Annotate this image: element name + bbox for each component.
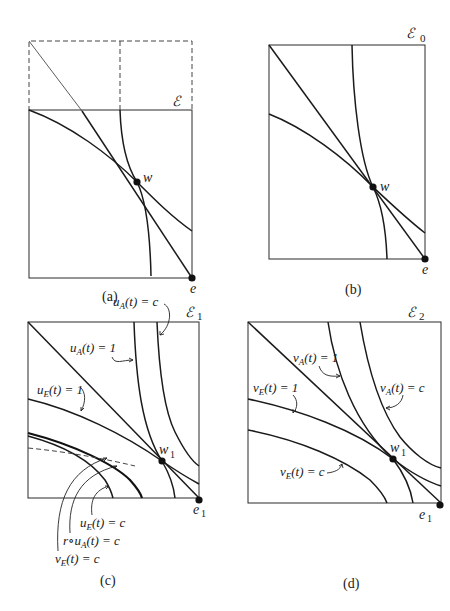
point-e-label: e (422, 262, 428, 277)
point-e1-label: e (193, 502, 199, 517)
point-e1 (436, 501, 443, 508)
set-label-subscript: 1 (197, 310, 203, 322)
svg-text:vE(t) = 1: vE(t) = 1 (253, 380, 298, 397)
svg-text:r∘uA(t) = c: r∘uA(t) = c (63, 533, 120, 550)
set-label: ℰ (407, 305, 417, 320)
economic-figure: w e ℰ (a) w e ℰ 0 (b) w 1 (0, 0, 450, 611)
panel-b: w e ℰ 0 (b) (269, 26, 429, 298)
label-uA-1: uA(t) = 1 (70, 340, 133, 362)
label-vE-1: vE(t) = 1 (253, 380, 298, 413)
caption-d: (d) (343, 576, 360, 592)
dashed-extension-box (29, 41, 192, 111)
point-e1-subscript: 1 (201, 508, 206, 519)
svg-text:vE(t) = c: vE(t) = c (55, 551, 100, 568)
panel-a: w e ℰ (a) (29, 41, 196, 305)
svg-text:vE(t) = c: vE(t) = c (280, 464, 325, 481)
diagonal-budget-line (269, 45, 425, 259)
arrow (92, 486, 109, 515)
label-vA-1: vA(t) = 1 (293, 350, 340, 378)
point-w1 (389, 455, 396, 462)
svg-text:uA(t) = 1: uA(t) = 1 (70, 340, 116, 357)
label-vE-c: vE(t) = c (280, 464, 343, 481)
diagonal-budget-line-dashed-part (29, 41, 82, 111)
point-e1-label: e (419, 507, 425, 522)
label-uA-c: uA(t) = c (113, 294, 170, 335)
point-w-label: w (143, 170, 153, 185)
svg-text:vA(t) = 1: vA(t) = 1 (293, 350, 338, 367)
point-e-label: e (190, 281, 196, 296)
flat-indifference-curve (29, 110, 192, 231)
label-uE-c: uE(t) = c (80, 486, 126, 532)
curve-r-uA-equals-c (28, 433, 142, 498)
point-w1-subscript: 1 (401, 447, 406, 458)
label-vA-c: vA(t) = c (380, 380, 425, 410)
svg-text:vA(t) = c: vA(t) = c (380, 380, 425, 397)
set-label: ℰ (185, 305, 195, 320)
caption-c: (c) (100, 573, 116, 589)
svg-text:uE(t) = 1: uE(t) = 1 (37, 382, 83, 399)
diagonal-budget-line (248, 322, 441, 503)
panel-d: w 1 e 1 ℰ 2 vA(t) = 1 vA(t) = c vE(t) = … (248, 305, 444, 592)
arrow (160, 304, 170, 335)
point-w1 (158, 457, 165, 464)
steep-indifference-curve (352, 45, 387, 259)
set-frame (29, 110, 192, 278)
point-w1-label: w (390, 440, 400, 455)
point-e1-subscript: 1 (427, 513, 432, 524)
point-w (369, 183, 376, 190)
set-label: ℰ (406, 26, 416, 41)
point-w (133, 178, 140, 185)
curve-vA-equals-1 (328, 322, 413, 503)
arrow (112, 357, 133, 362)
point-w-label: w (380, 179, 390, 194)
set-label: ℰ (172, 94, 182, 109)
point-w1-subscript: 1 (170, 449, 175, 460)
curve-uA-equals-1 (134, 322, 175, 498)
flat-indifference-curve (269, 114, 425, 233)
label-uE-1: uE(t) = 1 (37, 382, 85, 411)
caption-b: (b) (345, 282, 362, 298)
svg-text:uA(t) = c: uA(t) = c (113, 294, 159, 311)
point-w1-label: w (159, 442, 169, 457)
diagonal-budget-line (82, 111, 192, 278)
set-label-subscript: 0 (420, 32, 426, 44)
label-vE-c: vE(t) = c (55, 458, 107, 568)
svg-text:uE(t) = c: uE(t) = c (80, 515, 126, 532)
set-label-subscript: 2 (419, 310, 425, 322)
panel-c: w 1 e 1 ℰ 1 uA(t) = c uA(t) = 1 uE(t) = … (28, 294, 206, 589)
curve-uE-equals-c (28, 436, 113, 498)
